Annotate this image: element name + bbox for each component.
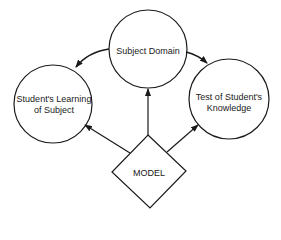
edge-domain-to-test (186, 52, 207, 63)
edge-model-to-test (167, 125, 198, 152)
label-students-learning-line1: Student's Learning (17, 94, 92, 105)
edge-model-to-learning (85, 125, 130, 153)
edge-domain-to-learning (76, 49, 109, 67)
label-test-knowledge-line1: Test of Student's (196, 92, 262, 103)
label-test-knowledge: Test of Student's Knowledge (196, 92, 262, 114)
label-model: MODEL (133, 168, 165, 179)
label-test-knowledge-line2: Knowledge (196, 103, 262, 114)
label-students-learning-line2: of Subject (17, 105, 92, 116)
label-subject-domain: Subject Domain (116, 46, 180, 57)
label-students-learning: Student's Learning of Subject (17, 94, 92, 116)
